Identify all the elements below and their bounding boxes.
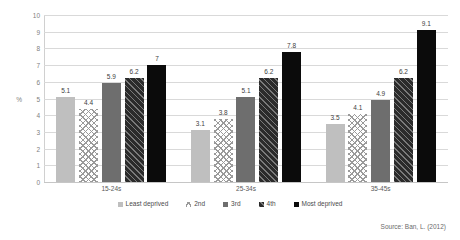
plot-area: 5.14.45.96.273.13.85.16.27.83.54.14.96.2…	[44, 15, 448, 182]
bar-slot: 9.1	[415, 15, 438, 182]
bar-slot: 4.4	[77, 15, 100, 182]
source-note: Source: Ban, L. (2012)	[381, 222, 446, 231]
legend-item-label: 2nd	[194, 200, 205, 208]
bar: 7.8	[282, 52, 301, 182]
x-axis-tick-label: 35-45s	[371, 184, 391, 193]
bar: 4.9	[371, 100, 390, 182]
y-axis-tick-label: 3	[18, 128, 40, 135]
bar: 3.8	[214, 119, 233, 182]
y-axis-tick-label: 7	[18, 62, 40, 69]
chart-legend: Least deprived2nd3rd4thMost deprived	[0, 200, 460, 208]
bar-group: 5.14.45.96.27	[44, 15, 179, 182]
bar: 9.1	[417, 30, 436, 182]
legend-swatch-icon	[223, 202, 228, 207]
y-axis-tick-label: 10	[18, 12, 40, 19]
legend-swatch-icon	[186, 202, 191, 207]
bar-chart: % 012345678910 5.14.45.96.273.13.85.16.2…	[0, 0, 460, 240]
legend-swatch-icon	[294, 202, 299, 207]
bar-slot: 4.1	[346, 15, 369, 182]
legend-item-label: Most deprived	[302, 200, 343, 208]
legend-item[interactable]: Most deprived	[294, 200, 343, 208]
bar-group-bars: 3.13.85.16.27.8	[179, 15, 314, 182]
bar: 3.1	[191, 130, 210, 182]
x-axis-tick-label: 25-34s	[236, 184, 256, 193]
bar-value-label: 5.9	[107, 73, 116, 81]
bar-group-bars: 3.54.14.96.29.1	[313, 15, 448, 182]
bar-group: 3.54.14.96.29.1	[313, 15, 448, 182]
bar-slot: 5.1	[235, 15, 258, 182]
bar-value-label: 3.5	[331, 114, 340, 122]
bar-value-label: 6.2	[264, 68, 273, 76]
bar: 5.1	[56, 97, 75, 182]
bar: 4.4	[79, 109, 98, 182]
x-axis: 15-24s25-34s35-45s	[44, 184, 448, 196]
gridline	[44, 182, 448, 183]
bar-value-label: 9.1	[422, 20, 431, 28]
bar-slot: 5.1	[54, 15, 77, 182]
bar: 7	[147, 65, 166, 182]
bar-slot: 7.8	[280, 15, 303, 182]
legend-swatch-icon	[118, 202, 123, 207]
bar-slot: 6.2	[392, 15, 415, 182]
bar-value-label: 7.8	[287, 42, 296, 50]
legend-item-label: Least deprived	[126, 200, 169, 208]
legend-item[interactable]: 2nd	[186, 200, 205, 208]
bar-slot: 3.1	[189, 15, 212, 182]
y-axis-tick-label: 8	[18, 45, 40, 52]
legend-swatch-icon	[259, 202, 264, 207]
bar-value-label: 3.1	[196, 120, 205, 128]
legend-item[interactable]: 4th	[259, 200, 276, 208]
bar: 6.2	[394, 78, 413, 182]
bar: 5.9	[102, 83, 121, 182]
bar-group: 3.13.85.16.27.8	[179, 15, 314, 182]
y-axis-tick-label: 1	[18, 162, 40, 169]
bar: 6.2	[125, 78, 144, 182]
y-axis: 012345678910	[10, 15, 40, 182]
y-axis-tick-label: 0	[18, 179, 40, 186]
y-axis-tick-label: 2	[18, 145, 40, 152]
bar-value-label: 7	[155, 55, 159, 63]
legend-item-label: 3rd	[231, 200, 240, 208]
bar-value-label: 4.4	[84, 99, 93, 107]
bar: 4.1	[348, 114, 367, 182]
bar-value-label: 4.1	[353, 104, 362, 112]
bar-slot: 3.8	[212, 15, 235, 182]
bar-value-label: 5.1	[241, 87, 250, 95]
bar: 6.2	[259, 78, 278, 182]
bar-slot: 4.9	[369, 15, 392, 182]
bar-value-label: 6.2	[130, 68, 139, 76]
bar-value-label: 3.8	[219, 109, 228, 117]
legend-item-label: 4th	[267, 200, 276, 208]
bar-value-label: 6.2	[399, 68, 408, 76]
x-axis-tick-label: 15-24s	[101, 184, 121, 193]
y-axis-tick-label: 9	[18, 28, 40, 35]
bar-slot: 5.9	[100, 15, 123, 182]
legend-item[interactable]: 3rd	[223, 200, 240, 208]
bar: 5.1	[236, 97, 255, 182]
legend-item[interactable]: Least deprived	[118, 200, 169, 208]
bar: 3.5	[326, 124, 345, 182]
bar-group-bars: 5.14.45.96.27	[44, 15, 179, 182]
y-axis-tick-label: 6	[18, 78, 40, 85]
bar-value-label: 5.1	[61, 87, 70, 95]
y-axis-tick-label: 4	[18, 112, 40, 119]
bar-slot: 3.5	[324, 15, 347, 182]
bar-slot: 6.2	[257, 15, 280, 182]
bar-slot: 7	[146, 15, 169, 182]
y-axis-tick-label: 5	[18, 95, 40, 102]
bar-value-label: 4.9	[376, 90, 385, 98]
bar-slot: 6.2	[123, 15, 146, 182]
